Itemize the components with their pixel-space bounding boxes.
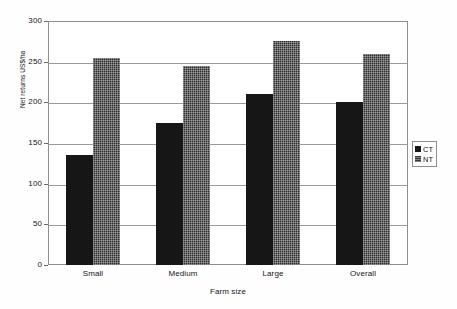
bar-medium-nt [183, 66, 210, 265]
bar-overall-ct [336, 102, 363, 265]
chart-figure: Net returns US$/ha 050100150200250300 Sm… [0, 0, 457, 309]
bar-medium-ct [156, 123, 183, 265]
bar-large-nt [273, 41, 300, 265]
x-axis: SmallMediumLargeOverall [48, 268, 408, 282]
bar-overall-nt [363, 54, 390, 265]
x-axis-title: Farm size [48, 286, 408, 297]
x-axis-label-medium: Medium [138, 268, 228, 279]
legend-item-nt[interactable]: NT [415, 154, 433, 164]
x-axis-label-large: Large [228, 268, 318, 279]
chart-legend[interactable]: CTNT [412, 141, 437, 167]
bar-small-ct [66, 155, 93, 265]
bar-small-nt [93, 58, 120, 265]
x-axis-label-small: Small [48, 268, 138, 279]
legend-label: CT [423, 145, 433, 154]
legend-label: NT [423, 155, 433, 164]
bar-large-ct [246, 94, 273, 265]
legend-item-ct[interactable]: CT [415, 144, 433, 154]
x-axis-label-overall: Overall [318, 268, 408, 279]
square-solid-icon [415, 146, 421, 152]
bars-layer [0, 0, 457, 309]
square-hatched-icon [415, 156, 421, 162]
